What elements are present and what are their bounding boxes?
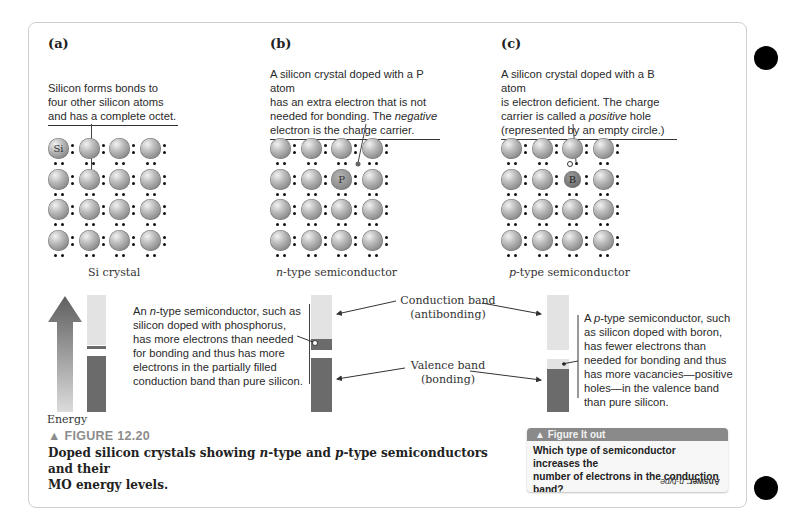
answer-label: Answer: [686, 477, 720, 487]
note-line: has fewer electrons than [584, 339, 734, 353]
caption-line: MO energy levels. [48, 477, 508, 493]
note-line: holes—in the valence band [584, 381, 734, 395]
text: Which type of semiconductor increases th… [533, 444, 722, 470]
caption-line: Doped silicon crystals showing n-type an… [48, 445, 508, 477]
figure-number: ▲ FIGURE 12.20 [48, 429, 150, 443]
note-line: as silicon doped with boron, [584, 325, 734, 339]
text: A [584, 312, 594, 324]
emphasis: n [259, 446, 268, 460]
text: -type semiconductor, such [600, 312, 730, 324]
positive-hole-icon [567, 161, 573, 167]
figure-it-out-box: ▲ Figure It out Which type of semiconduc… [527, 428, 728, 492]
note-line: than pure silicon. [584, 395, 734, 409]
figure-caption: Doped silicon crystals showing n-type an… [48, 445, 508, 493]
note-line: A p-type semiconductor, such [584, 311, 734, 325]
note-line: needed for bonding and thus [584, 353, 734, 367]
p-type-note: A p-type semiconductor, such as silicon … [584, 311, 734, 409]
text: -type and [268, 446, 335, 460]
text: Doped silicon crystals showing [48, 446, 259, 460]
note-line: has more vacancies—positive [584, 367, 734, 381]
answer-value: n-type. [658, 477, 684, 487]
figure-it-out-answer-upside-down: Answer: n-type. [658, 477, 720, 487]
figure-it-out-header: ▲ Figure It out [527, 428, 728, 441]
